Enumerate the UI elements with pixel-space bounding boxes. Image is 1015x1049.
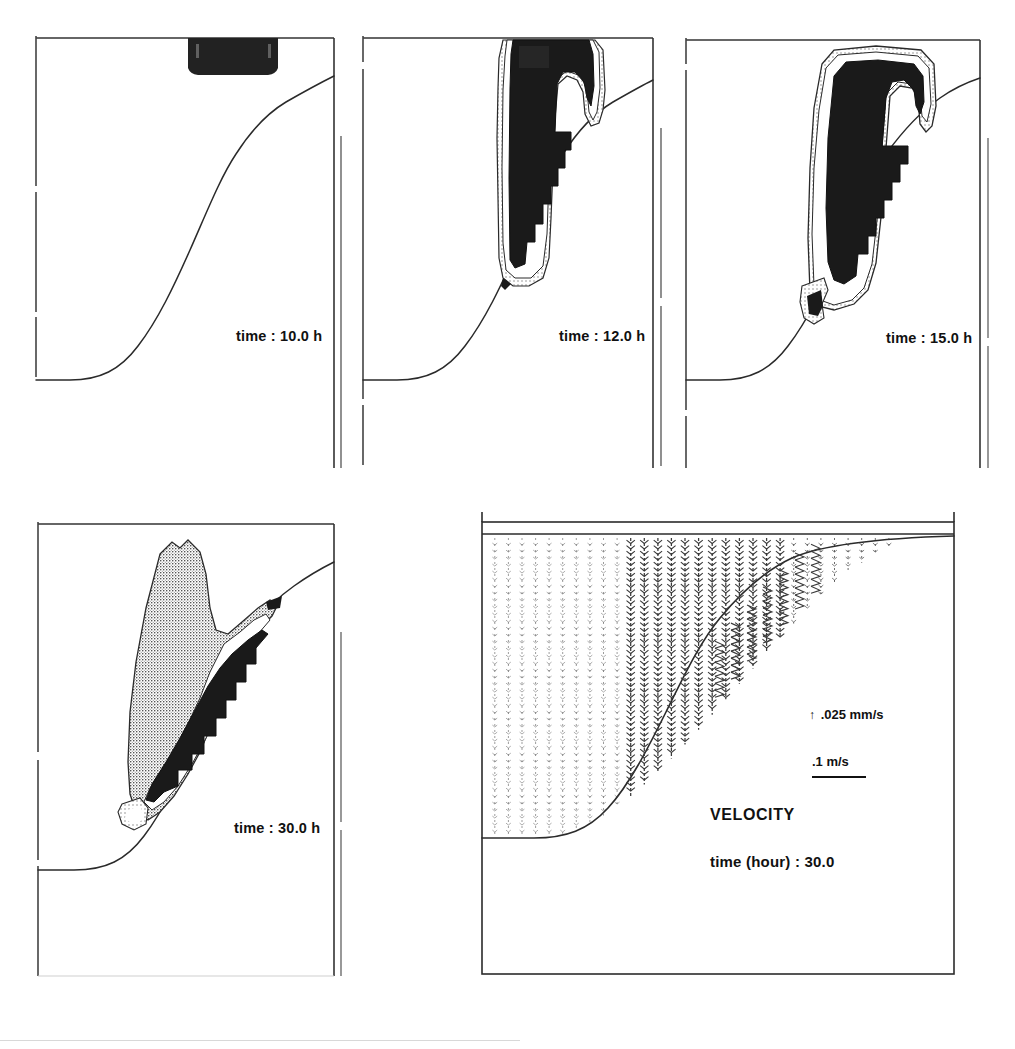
velocity-vector-barb: [560, 564, 565, 566]
velocity-vector-barb: [492, 774, 497, 776]
velocity-vector-barb: [819, 564, 824, 566]
velocity-vector-barb: [520, 578, 525, 580]
velocity-vector-barb: [547, 746, 552, 748]
velocity-vector-barb: [667, 601, 675, 604]
velocity-vector-barb: [520, 690, 525, 692]
velocity-vector-barb: [492, 697, 497, 699]
velocity-vector-barb: [601, 732, 606, 734]
velocity-vector-barb: [615, 697, 620, 699]
velocity-vector-barb: [654, 551, 662, 554]
velocity-vector-barb: [601, 606, 606, 608]
plume-bed-foot: [800, 278, 828, 324]
velocity-vector-barb: [506, 788, 511, 790]
velocity-vector-barb: [533, 781, 538, 783]
velocity-vector-barb: [681, 661, 689, 664]
legend-bar-scale: .1 m/s: [812, 754, 849, 769]
velocity-vector-barb: [735, 601, 743, 604]
velocity-vector-barb: [533, 788, 538, 790]
velocity-vector-barb: [533, 823, 538, 825]
velocity-vector-barb: [681, 716, 689, 719]
velocity-vector-barb: [492, 613, 497, 615]
velocity-vector-barb: [601, 655, 606, 657]
legend-vector-scale-text: .025 mm/s: [821, 707, 884, 722]
velocity-vector-barb: [694, 711, 702, 714]
velocity-vector-slope-barb: [795, 560, 804, 567]
velocity-vector-barb: [560, 781, 565, 783]
velocity-vector-barb: [588, 620, 593, 622]
velocity-vector-barb: [520, 781, 525, 783]
velocity-title: VELOCITY: [710, 806, 795, 824]
velocity-vector-barb: [776, 551, 784, 554]
velocity-vector-barb: [832, 564, 837, 566]
velocity-vector-barb: [506, 613, 511, 615]
velocity-vector-slope-barb: [731, 665, 740, 672]
velocity-vector-barb: [574, 648, 579, 650]
plume-core-contour: [509, 40, 594, 268]
velocity-vector-barb: [506, 816, 511, 818]
velocity-vector-slope-barb: [731, 623, 740, 630]
velocity-vector-barb: [506, 732, 511, 734]
velocity-vector-barb: [492, 655, 497, 657]
velocity-vector-barb: [533, 564, 538, 566]
velocity-vector-barb: [560, 578, 565, 580]
scale-bar-icon: [812, 776, 866, 778]
velocity-vector-barb: [547, 739, 552, 741]
velocity-vector-barb: [615, 732, 620, 734]
velocity-vector-barb: [574, 620, 579, 622]
velocity-vector-barb: [506, 830, 511, 832]
velocity-vector-slope-barb: [731, 672, 740, 679]
velocity-vector-barb: [547, 662, 552, 664]
velocity-vector-field: [492, 538, 891, 837]
velocity-vector-barb: [574, 788, 579, 790]
velocity-vector-barb: [601, 571, 606, 573]
velocity-vector-barb: [749, 546, 757, 549]
velocity-vector-barb: [601, 578, 606, 580]
velocity-vector-slope-barb: [715, 676, 724, 683]
velocity-vector-barb: [791, 620, 796, 622]
velocity-vector-slope-barb: [795, 567, 804, 574]
velocity-vector-barb: [846, 564, 851, 566]
velocity-vector-barb: [588, 613, 593, 615]
velocity-vector-barb: [506, 739, 511, 741]
velocity-vector-barb: [492, 732, 497, 734]
velocity-vector-barb: [762, 551, 770, 554]
panel-time-30: time : 30.0 h: [28, 512, 350, 982]
velocity-vector-barb: [749, 551, 757, 554]
velocity-vector-barb: [560, 732, 565, 734]
velocity-vector-barb: [735, 606, 743, 609]
velocity-vector-barb: [574, 816, 579, 818]
velocity-vector-barb: [791, 564, 796, 566]
velocity-vector-barb: [791, 571, 796, 573]
velocity-vector-barb: [574, 571, 579, 573]
velocity-vector-barb: [547, 578, 552, 580]
velocity-vector-barb: [547, 620, 552, 622]
velocity-vector-barb: [560, 746, 565, 748]
velocity-vector-barb: [640, 771, 648, 774]
velocity-vector-barb: [547, 732, 552, 734]
velocity-vector-barb: [654, 606, 662, 609]
velocity-vector-barb: [574, 690, 579, 692]
velocity-vector-barb: [615, 578, 620, 580]
velocity-vector-slope-barb: [795, 602, 804, 609]
velocity-vector-barb: [547, 613, 552, 615]
velocity-vector-barb: [560, 704, 565, 706]
velocity-vector-barb: [601, 697, 606, 699]
velocity-vector-barb: [574, 704, 579, 706]
velocity-vector-barb: [615, 746, 620, 748]
velocity-vector-barb: [533, 571, 538, 573]
velocity-vector-barb: [492, 816, 497, 818]
velocity-vector-barb: [533, 697, 538, 699]
velocity-vector-barb: [708, 606, 716, 609]
velocity-vector-barb: [791, 606, 796, 608]
velocity-vector-barb: [601, 690, 606, 692]
velocity-vector-barb: [560, 823, 565, 825]
velocity-vector-barb: [547, 823, 552, 825]
velocity-vector-barb: [601, 662, 606, 664]
velocity-vector-barb: [506, 704, 511, 706]
velocity-vector-barb: [805, 564, 810, 566]
velocity-vector-barb: [805, 578, 810, 580]
velocity-vector-barb: [506, 648, 511, 650]
velocity-vector-barb: [492, 830, 497, 832]
velocity-vector-barb: [520, 655, 525, 657]
velocity-vector-barb: [520, 613, 525, 615]
